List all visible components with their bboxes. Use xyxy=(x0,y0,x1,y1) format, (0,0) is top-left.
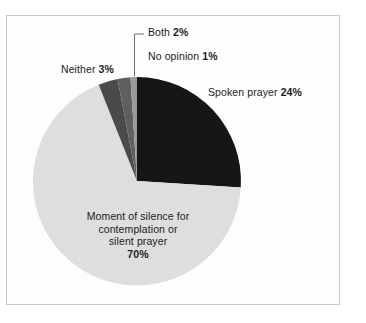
slice-label-both-text: Both xyxy=(148,26,170,38)
slice-label-both: Both 2% xyxy=(148,26,188,39)
slice-label-moment-line3: silent prayer xyxy=(63,235,213,248)
slice-label-neither-text: Neither xyxy=(61,63,96,75)
slice-label-spoken-prayer-text: Spoken prayer xyxy=(208,86,278,98)
slice-label-moment-line2: contemplation or xyxy=(63,223,213,236)
slice-label-moment-value: 70% xyxy=(63,248,213,261)
slice-label-neither-value: 3% xyxy=(99,63,114,75)
pie-chart-figure: Both 2% No opinion 1% Neither 3% Spoken … xyxy=(0,0,366,323)
slice-label-spoken-prayer-value: 24% xyxy=(281,86,302,98)
slice-label-neither: Neither 3% xyxy=(61,63,114,76)
slice-label-spoken-prayer: Spoken prayer 24% xyxy=(208,86,302,99)
slice-label-moment-of-silence: Moment of silence for contemplation or s… xyxy=(63,210,213,260)
both-leader-line xyxy=(135,34,145,77)
slice-label-no-opinion-value: 1% xyxy=(202,50,217,62)
slice-label-no-opinion: No opinion 1% xyxy=(148,50,218,63)
pie-chart-graphic xyxy=(0,0,366,323)
slice-label-no-opinion-text: No opinion xyxy=(148,50,199,62)
slice-label-both-value: 2% xyxy=(173,26,188,38)
slice-label-moment-line1: Moment of silence for xyxy=(63,210,213,223)
